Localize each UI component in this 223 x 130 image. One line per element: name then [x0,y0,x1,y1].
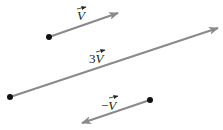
vector-3v-arrow [10,28,218,97]
vector-neg-v-label: −V [101,98,118,113]
vector-neg-v-start-point [147,97,153,103]
vector-v-label: V [77,8,87,23]
vector-neg-v: −V [82,96,153,123]
vector-3v: 3V [7,28,218,100]
vector-diagram: V 3V −V [0,0,223,130]
vector-3v-label: 3V [89,51,106,66]
vector-3v-start-point [7,94,13,100]
vector-v: V [46,7,118,40]
vector-v-start-point [46,34,52,40]
